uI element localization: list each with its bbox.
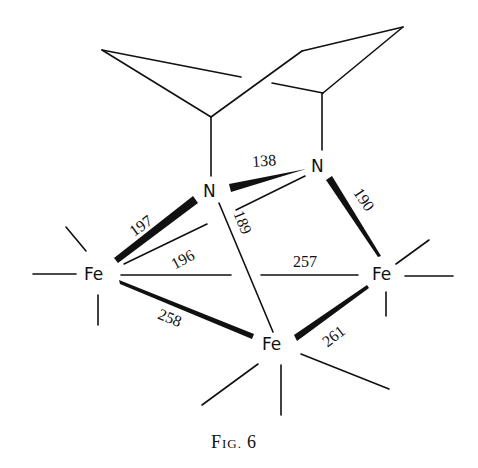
atom-fe-left: Fe: [84, 264, 103, 284]
label-190: 190: [350, 185, 378, 214]
atom-fe-right: Fe: [372, 264, 391, 284]
label-258: 258: [156, 305, 185, 330]
atom-fe-bottom: Fe: [262, 334, 281, 354]
carbonyl-stubs: [33, 227, 453, 415]
label-196: 196: [168, 246, 197, 272]
label-261: 261: [319, 322, 348, 350]
caption-number: 6: [247, 432, 257, 452]
label-257: 257: [293, 253, 317, 270]
atom-n1: N: [203, 181, 216, 201]
figure-caption: FIG.6: [211, 432, 257, 452]
atom-n2: N: [311, 156, 324, 176]
caption-smallcaps: IG.: [222, 436, 242, 451]
fe3-diazene-cluster-diagram: N N Fe Fe Fe 138 197 196 189 190 257 258…: [0, 0, 478, 468]
label-138: 138: [251, 151, 276, 170]
caption-prefix: F: [211, 432, 222, 452]
label-189: 189: [230, 208, 255, 237]
n-n-bond: [229, 169, 306, 210]
